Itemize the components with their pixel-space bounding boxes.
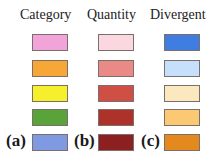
swatch-category-2 (32, 60, 68, 77)
swatch-divergent-5 (164, 134, 200, 151)
swatch-divergent-4 (164, 109, 200, 126)
swatch-category-4 (32, 109, 68, 126)
column-title-quantity: Quantity (87, 7, 136, 23)
column-title-divergent: Divergent (150, 7, 206, 23)
swatch-divergent-2 (164, 60, 200, 77)
swatch-category-1 (32, 34, 68, 51)
column-title-category: Category (20, 7, 71, 23)
panel-label-b: (b) (74, 131, 95, 151)
swatch-quantity-3 (98, 85, 134, 102)
swatch-category-3 (32, 85, 68, 102)
panel-label-a: (a) (6, 131, 26, 151)
swatch-quantity-1 (98, 34, 134, 51)
swatch-quantity-2 (98, 60, 134, 77)
swatch-category-5 (32, 134, 68, 151)
swatch-quantity-5 (98, 134, 134, 151)
swatch-quantity-4 (98, 109, 134, 126)
swatch-divergent-1 (164, 34, 200, 51)
panel-label-c: (c) (141, 131, 160, 151)
swatch-divergent-3 (164, 85, 200, 102)
